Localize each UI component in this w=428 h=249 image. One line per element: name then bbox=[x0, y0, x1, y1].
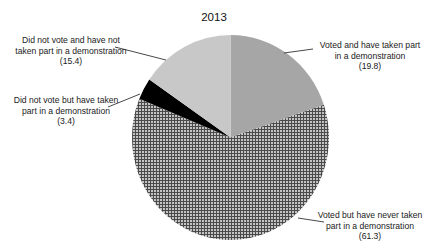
label-line: part in a demonstration bbox=[6, 106, 126, 117]
label-line: in a demonstration bbox=[310, 51, 428, 62]
label-value: (61.3) bbox=[313, 231, 427, 242]
label-value: (15.4) bbox=[6, 56, 136, 67]
label-line: Voted and have taken part bbox=[310, 40, 428, 51]
label-line: Did not vote but have taken bbox=[6, 95, 126, 106]
label-line: Voted but have never taken bbox=[313, 210, 427, 221]
label-value: (3.4) bbox=[6, 116, 126, 127]
label-line: part in a demonstration bbox=[313, 221, 427, 232]
label-novote-nodemo: Did not vote and have not taken part in … bbox=[6, 35, 136, 67]
chart-title: 2013 bbox=[0, 11, 428, 23]
leader-line-voted-demo bbox=[284, 49, 313, 53]
label-line: Did not vote and have not bbox=[6, 35, 136, 46]
label-novote-demo: Did not vote but have taken part in a de… bbox=[6, 95, 126, 127]
label-voted-demo: Voted and have taken part in a demonstra… bbox=[310, 40, 428, 72]
label-value: (19.8) bbox=[310, 61, 428, 72]
pie-slices bbox=[132, 35, 329, 240]
label-voted-never: Voted but have never taken part in a dem… bbox=[313, 210, 427, 242]
label-line: taken part in a demonstration bbox=[6, 46, 136, 57]
